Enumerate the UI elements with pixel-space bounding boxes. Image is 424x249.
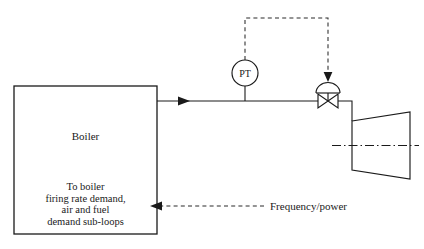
pid-diagram: Boiler To boiler firing rate demand, air…: [0, 0, 424, 249]
boiler-subloop-line-4: demand sub-loops: [47, 216, 124, 227]
pt-to-valve-signal-line: [245, 18, 328, 72]
frequency-power-label: Frequency/power: [270, 200, 347, 212]
pt-tag-label: PT: [239, 68, 251, 79]
boiler-subloop-line-3: air and fuel: [62, 204, 110, 215]
valve-body-left: [318, 94, 328, 108]
valve-actuator-dome: [316, 83, 340, 93]
frequency-power-feedback-arrow: [150, 202, 162, 211]
diagram-canvas: Boiler To boiler firing rate demand, air…: [0, 0, 424, 249]
valve-body-right: [328, 94, 338, 108]
boiler-subloop-line-2: firing rate demand,: [45, 193, 125, 204]
boiler-subloop-line-1: To boiler: [66, 181, 105, 192]
valve-to-turbine-pipe: [338, 101, 352, 121]
steam-flow-arrow: [178, 97, 190, 106]
boiler-label: Boiler: [72, 130, 100, 142]
valve-signal-arrow: [324, 72, 333, 82]
